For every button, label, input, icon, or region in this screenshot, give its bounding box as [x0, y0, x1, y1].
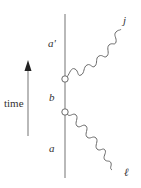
time-label: time	[4, 97, 24, 109]
worldline-diagram: time a' b a j ℓ	[0, 0, 141, 188]
segment-label-a-prime: a'	[48, 37, 57, 49]
wavy-label-j: j	[121, 14, 126, 26]
segment-label-a: a	[49, 142, 55, 154]
wavy-label-l: ℓ	[124, 166, 129, 178]
wavy-line-j	[67, 29, 121, 77]
segment-label-b: b	[49, 91, 55, 103]
vertex-lower	[62, 109, 68, 115]
wavy-line-l	[67, 114, 112, 170]
time-arrow	[25, 60, 32, 136]
arrowhead-icon	[25, 60, 32, 71]
vertex-upper	[62, 76, 68, 82]
